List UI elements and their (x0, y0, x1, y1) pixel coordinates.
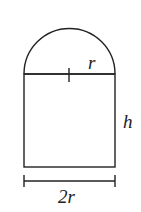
radius-label: r (88, 52, 96, 73)
rectangle-body (24, 74, 115, 167)
norman-window-diagram: r h 2r (0, 0, 141, 212)
height-label: h (123, 111, 133, 132)
width-label: 2r (58, 186, 76, 207)
semicircle-arc (24, 29, 115, 75)
